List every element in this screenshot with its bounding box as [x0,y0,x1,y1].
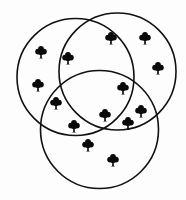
tree-icon [50,97,62,110]
tree-icon [32,79,44,92]
venn-diagram-canvas [0,0,186,200]
tree-icon [62,52,74,65]
tree-icon [68,120,80,133]
tree-icon [82,139,94,152]
tree-icon [135,105,147,118]
tree-icon [152,62,164,75]
trees-layer [32,32,164,167]
tree-icon [99,109,111,122]
tree-icon [35,46,47,59]
tree-icon [139,32,151,45]
circle-top-left [17,19,134,136]
circles-layer [17,13,176,189]
tree-icon [107,154,119,167]
tree-icon [117,82,129,95]
venn-diagram [0,0,186,200]
